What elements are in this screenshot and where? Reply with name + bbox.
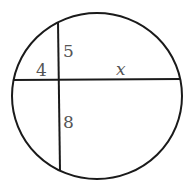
label-upper-segment: 5 (63, 41, 74, 61)
label-left-segment: 4 (36, 60, 47, 80)
label-lower-segment: 8 (63, 112, 74, 132)
vertical-chord (58, 22, 60, 171)
label-right-segment: x (116, 59, 126, 79)
chord-diagram: 4 x 5 8 (0, 0, 195, 192)
circle (12, 13, 182, 179)
